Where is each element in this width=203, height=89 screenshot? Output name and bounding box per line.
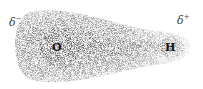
delta-symbol: δ [177,14,184,27]
partial-negative-charge: δ− [9,16,22,28]
delta-symbol: δ [9,16,16,29]
charge-sign: + [184,13,190,21]
hydrogen-atom-label: H [165,42,175,53]
bond-diagram: O H δ− δ+ [0,0,203,89]
oxygen-atom-label: O [52,42,62,53]
charge-sign: − [16,15,22,23]
partial-positive-charge: δ+ [177,14,190,26]
